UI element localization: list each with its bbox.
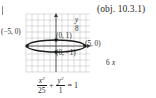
label-left-vertex: (−5, 0) [1, 29, 21, 36]
y-axis-arrow [54, 13, 58, 17]
label-right-vertex: (5, 0) [85, 41, 101, 48]
page-edge-mark [2, 6, 3, 15]
ellipse-equation: x2 25 + y2 1 = 1 [36, 77, 80, 94]
denominator-1: 1 [58, 86, 64, 94]
x-axis-tick-6: 6 [106, 60, 110, 67]
denominator-25: 25 [37, 86, 47, 94]
x-axis-label: x [112, 60, 115, 67]
equals-one: = 1 [66, 81, 80, 90]
label-top-covertex: (0, 1) [56, 33, 72, 40]
fraction-y-squared-over-1: y2 1 [56, 77, 65, 94]
numerator-x-squared: x2 [38, 77, 46, 85]
numerator-x-exponent: 2 [42, 76, 45, 81]
label-bottom-covertex: (0, −1) [56, 50, 76, 57]
numerator-y-exponent: 2 [61, 76, 64, 81]
plus-operator: + [48, 81, 56, 90]
graph-canvas [24, 13, 92, 73]
leader-lines [28, 42, 85, 49]
objective-tag: (obj. 10.3.1) [97, 4, 145, 14]
y-axis-label: y [75, 17, 78, 24]
ellipse-figure: (obj. 10.3.1) [0, 0, 156, 98]
y-axis-tick-8: 8 [75, 26, 79, 33]
fraction-x-squared-over-25: x2 25 [37, 77, 47, 94]
numerator-y-squared: y2 [57, 77, 65, 85]
coordinate-graph: y 8 x 6 [24, 13, 92, 73]
